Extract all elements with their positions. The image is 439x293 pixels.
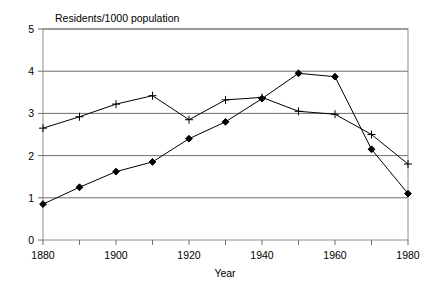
chart-container: 012345 188019001920194019601980 Resident… (0, 0, 439, 293)
y-tick-label: 2 (28, 150, 34, 162)
chart-background (0, 0, 439, 293)
x-tick-label: 1960 (323, 249, 347, 261)
y-tick-label: 5 (28, 23, 34, 35)
x-tick-label: 1920 (177, 249, 201, 261)
x-axis-title: Year (214, 267, 236, 279)
y-tick-label: 4 (28, 65, 34, 77)
line-chart: 012345 188019001920194019601980 Resident… (0, 0, 439, 293)
x-tick-label: 1900 (104, 249, 128, 261)
y-tick-label: 1 (28, 192, 34, 204)
y-tick-label: 0 (28, 234, 34, 246)
page-title: Residents/1000 population (55, 12, 180, 24)
x-tick-label: 1980 (396, 249, 420, 261)
x-tick-label: 1880 (31, 249, 55, 261)
y-tick-label: 3 (28, 107, 34, 119)
x-tick-label: 1940 (250, 249, 274, 261)
